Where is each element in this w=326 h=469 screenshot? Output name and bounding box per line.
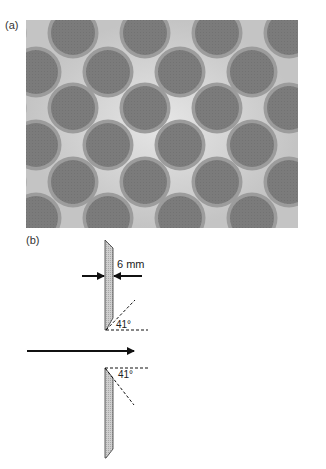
thickness-label: 6 mm bbox=[117, 258, 145, 270]
upper-angle-label: 41° bbox=[116, 319, 131, 330]
upper-plate bbox=[105, 240, 113, 330]
lower-plate bbox=[105, 368, 113, 458]
plate-cross-section-diagram: 6 mm 41° 41° bbox=[0, 0, 326, 469]
lower-angle-label: 41° bbox=[118, 369, 133, 380]
